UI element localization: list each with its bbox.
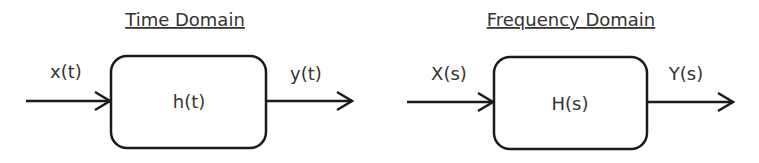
system-label: H(s) <box>552 93 589 114</box>
time-domain-diagram: Time Domain x(t) h(t) y(t) <box>26 9 352 148</box>
output-signal-label: y(t) <box>290 63 322 84</box>
block-diagram-canvas: Time Domain x(t) h(t) y(t) Frequency Dom… <box>0 0 759 163</box>
output-signal-label: Y(s) <box>668 63 703 84</box>
frequency-domain-diagram: Frequency Domain X(s) H(s) Y(s) <box>407 9 733 149</box>
input-signal-label: X(s) <box>431 63 467 84</box>
frequency-domain-title: Frequency Domain <box>487 9 656 30</box>
input-signal-label: x(t) <box>50 61 82 82</box>
system-label: h(t) <box>173 91 206 112</box>
time-domain-title: Time Domain <box>124 9 245 30</box>
